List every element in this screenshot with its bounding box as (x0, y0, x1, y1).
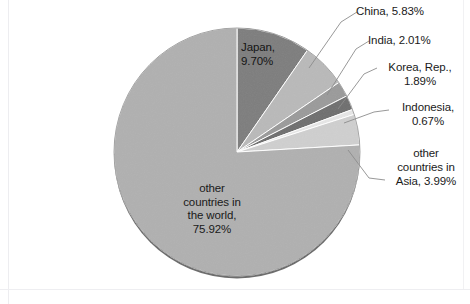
callout-label-indonesia: Indonesia, 0.67% (388, 100, 468, 128)
callout-label-other-countries-asia: other countries in Asia, 3.99% (384, 146, 468, 188)
slice-label-other-countries-world: other countries in the world, 75.92% (152, 182, 272, 236)
slice-label-japan: Japan, 9.70% (241, 41, 275, 68)
callout-label-china: China, 5.83% (356, 4, 424, 18)
pie-slices-group (114, 28, 360, 276)
callout-label-india: India, 2.01% (368, 33, 431, 47)
callout-label-korea-rep: Korea, Rep., 1.89% (374, 60, 466, 88)
pie-chart-figure: Japan, 9.70% other countries in the worl… (0, 0, 470, 304)
